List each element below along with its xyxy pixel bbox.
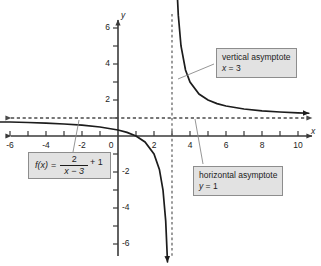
y-tick-label--2: -2 [122,166,136,176]
x-axis [10,131,312,136]
leader-line-horizontal-asymptote [195,119,203,164]
callout-vertical-asymptote-label: vertical asymptote [222,52,291,63]
function-numerator: 2 [68,155,81,165]
y-tick-label--6: -6 [122,238,136,248]
x-tick-label-10: 10 [291,140,305,150]
x-tick-label-8: 8 [257,140,267,150]
function-constant-term: + 1 [90,155,103,168]
x-tick-label-4: 4 [185,140,195,150]
callout-horizontal-asymptote-value: = 1 [203,181,217,191]
y-tick-label-4: 4 [98,58,110,68]
y-tick-label-2: 2 [98,94,110,104]
callout-vertical-asymptote: vertical asymptote x = 3 [216,48,297,78]
x-tick-label-2: 2 [149,140,159,150]
function-denominator: x − 3 [60,166,88,176]
x-tick-label--6: -6 [3,140,17,150]
callout-horizontal-asymptote: horizontal asymptote y = 1 [193,166,283,196]
y-tick-label-6: 6 [98,22,110,32]
function-equals: = [51,160,56,171]
callout-horizontal-asymptote-equation: y = 1 [199,181,277,192]
rational-function-graph-figure: -6 -4 -2 0 2 4 6 8 10 6 4 2 -2 -4 -6 x y… [0,0,321,266]
y-axis [113,20,118,256]
function-name: f(x) [35,160,48,171]
x-axis-label: x [311,126,315,136]
leader-line-vertical-asymptote [178,64,214,79]
x-tick-label-0: 0 [106,140,116,150]
callout-vertical-asymptote-value: = 3 [226,63,240,73]
function-formula: f(x) = 2 x − 3 + 1 [35,155,103,176]
function-fraction: 2 x − 3 [60,155,88,176]
callout-vertical-asymptote-equation: x = 3 [222,63,291,74]
callout-function-formula: f(x) = 2 x − 3 + 1 [28,152,111,179]
x-tick-label-6: 6 [221,140,231,150]
x-tick-label--2: -2 [75,140,89,150]
graph-canvas [0,0,321,266]
callout-horizontal-asymptote-label: horizontal asymptote [199,170,277,181]
y-tick-label--4: -4 [122,202,136,212]
x-tick-label--4: -4 [39,140,53,150]
y-axis-label: y [121,10,125,20]
